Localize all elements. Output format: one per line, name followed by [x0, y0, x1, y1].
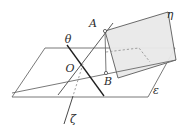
- label-plane-epsilon: ε: [153, 84, 159, 97]
- geometry-figure: A B O θ ζ η ε: [0, 0, 185, 130]
- point-a-marker: [103, 29, 106, 32]
- label-point-a: A: [88, 17, 97, 30]
- label-line-zeta: ζ: [70, 113, 77, 126]
- label-plane-eta: η: [167, 8, 174, 21]
- plane-intersection-line: [12, 60, 176, 93]
- geometry-canvas: A B O θ ζ η ε: [0, 0, 185, 130]
- plane-eta-shaded: [105, 12, 176, 78]
- label-point-o: O: [65, 62, 74, 75]
- segment-a-b: [105, 31, 106, 73]
- label-point-b: B: [103, 75, 112, 88]
- label-line-theta: θ: [65, 33, 72, 46]
